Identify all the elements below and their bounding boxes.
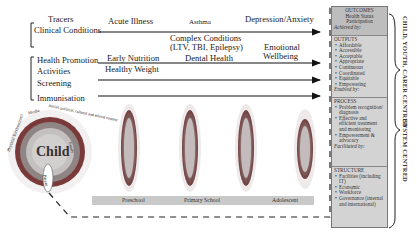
label-early-nutrition: Early Nutrition xyxy=(107,54,159,63)
label-system-centred: SYSTEM CENTRED xyxy=(402,120,409,182)
stage-adolescent: Adolescent xyxy=(272,197,298,203)
label-immunisation: Immunisation xyxy=(37,94,85,103)
structure-item: Governance (internal and international) xyxy=(339,196,385,207)
label-screening: Screening xyxy=(37,79,71,88)
label-health-promotion: Health Promotion xyxy=(37,56,98,65)
label-child: Child xyxy=(36,144,69,160)
label-clinical-conditions: Clinical Conditions xyxy=(34,26,101,35)
process-item: Empowerment & advocacy xyxy=(339,133,385,144)
section-outcomes: OUTCOMES Health Status Participation Ach… xyxy=(332,7,387,36)
stage-ellipses xyxy=(118,104,316,192)
label-wellbeing: Wellbeing xyxy=(263,52,298,61)
brace-bottom xyxy=(389,95,400,228)
outcomes-foot: Achieved by: xyxy=(334,25,385,31)
label-complex-conditions-detail: (LTV, TBI, Epilepsy) xyxy=(170,43,243,52)
section-structure: STRUCTURE Facilities (including IT) Econ… xyxy=(332,167,387,229)
label-tracers: Tracers xyxy=(48,15,73,24)
outputs-item: Empowering xyxy=(339,82,385,88)
label-asthma: Asthma xyxy=(189,18,211,27)
brace-top xyxy=(389,14,400,95)
label-child-youth-carer-centred: CHILD, YOUTH, CARER CENTRED xyxy=(402,16,409,128)
quality-framework-panel: OUTCOMES Health Status Participation Ach… xyxy=(331,6,388,228)
label-depression-anxiety: Depression/Anxiety xyxy=(245,15,314,24)
label-activities: Activities xyxy=(37,67,70,76)
outputs-foot: Enabled by: xyxy=(334,87,385,93)
label-parent: Parent xyxy=(40,174,51,187)
process-item: Effective and efficient treatment and mo… xyxy=(339,116,385,133)
bracket-health-promotion xyxy=(31,57,34,100)
process-foot: Facilitated by: xyxy=(334,144,385,150)
stage-primary-school: Primary School xyxy=(184,197,220,203)
label-healthy-weight: Healthy Weight xyxy=(105,65,159,74)
stage-preschool: Preschool xyxy=(122,197,145,203)
section-outputs: OUTPUTS Affordable Accessible Acceptable… xyxy=(332,36,387,98)
label-dental-health: Dental Health xyxy=(185,54,233,63)
label-acute-illness: Acute Illness xyxy=(108,17,153,26)
section-process: PROCESS Problem recognition/ diagnosis E… xyxy=(332,98,387,167)
